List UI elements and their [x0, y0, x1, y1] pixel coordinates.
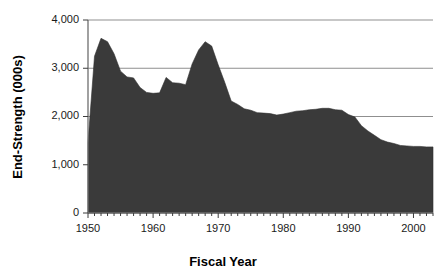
y-tick-label-1000: 1,000 — [51, 158, 79, 170]
x-tick-label-1950: 1950 — [76, 222, 100, 234]
y-tick-label-3000: 3,000 — [51, 61, 79, 73]
y-tick-label-2000: 2,000 — [51, 109, 79, 121]
x-tick-label-1960: 1960 — [141, 222, 165, 234]
x-tick-label-1990: 1990 — [336, 222, 360, 234]
end-strength-area-chart: 01,0002,0003,0004,000 195019601970198019… — [0, 0, 447, 274]
x-tick-label-2000: 2000 — [401, 222, 425, 234]
y-tick-label-4000: 4,000 — [51, 13, 79, 25]
x-tick-label-1970: 1970 — [206, 222, 230, 234]
x-tick-label-1980: 1980 — [271, 222, 295, 234]
chart-container: 01,0002,0003,0004,000 195019601970198019… — [0, 0, 447, 274]
y-tick-label-0: 0 — [73, 206, 79, 218]
y-axis-title: End-Strength (000s) — [10, 55, 25, 179]
x-axis-title: Fiscal Year — [189, 254, 257, 269]
